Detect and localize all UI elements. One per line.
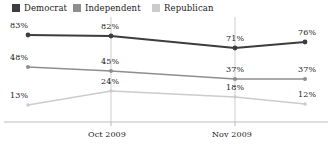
data-label-independent-3: 37% bbox=[226, 65, 244, 74]
legend-swatch-independent bbox=[73, 4, 81, 12]
legend-swatch-democrat bbox=[12, 4, 20, 12]
plot-svg bbox=[0, 17, 332, 150]
data-label-democrat-1: 83% bbox=[10, 21, 28, 30]
data-label-independent-1: 48% bbox=[10, 53, 28, 62]
data-point-republican bbox=[233, 95, 237, 99]
legend-item-independent[interactable]: Independent bbox=[73, 1, 141, 15]
chart-legend: Democrat Independent Republican bbox=[0, 0, 332, 17]
data-point-independent bbox=[233, 77, 237, 81]
data-label-independent-4: 37% bbox=[298, 65, 316, 74]
data-point-democrat bbox=[26, 33, 31, 38]
data-point-republican bbox=[26, 103, 30, 107]
data-label-republican-2: 24% bbox=[101, 77, 119, 86]
data-label-republican-1: 13% bbox=[10, 91, 28, 100]
legend-swatch-republican bbox=[152, 4, 160, 12]
legend-item-democrat[interactable]: Democrat bbox=[12, 1, 67, 15]
data-label-democrat-3: 71% bbox=[226, 34, 244, 43]
data-label-independent-2: 45% bbox=[101, 57, 119, 66]
axis-tick-label-oct-2009: Oct 2009 bbox=[88, 130, 126, 139]
data-label-republican-4: 12% bbox=[298, 90, 316, 99]
legend-label-republican: Republican bbox=[164, 3, 214, 13]
legend-label-independent: Independent bbox=[85, 3, 141, 13]
data-label-democrat-2: 82% bbox=[101, 22, 119, 31]
data-label-republican-3: 18% bbox=[226, 83, 244, 92]
data-point-independent bbox=[26, 65, 30, 69]
legend-label-democrat: Democrat bbox=[24, 3, 67, 13]
axis-tick-label-nov-2009: Nov 2009 bbox=[212, 130, 252, 139]
data-point-democrat bbox=[109, 34, 114, 39]
data-point-democrat bbox=[233, 46, 238, 51]
series-line-independent bbox=[28, 67, 305, 79]
data-point-independent bbox=[109, 69, 113, 73]
data-label-democrat-4: 76% bbox=[298, 28, 316, 37]
data-point-democrat bbox=[303, 40, 308, 45]
series-line-republican bbox=[28, 91, 305, 105]
data-point-republican bbox=[303, 102, 307, 106]
line-chart: Democrat Independent Republican bbox=[0, 0, 332, 150]
series-line-democrat bbox=[28, 35, 305, 48]
legend-item-republican[interactable]: Republican bbox=[152, 1, 214, 15]
plot-area: 83% 82% 71% 76% 48% 45% 37% 37% 13% 24% … bbox=[0, 17, 332, 150]
data-point-republican bbox=[109, 89, 113, 93]
data-point-independent bbox=[303, 77, 307, 81]
